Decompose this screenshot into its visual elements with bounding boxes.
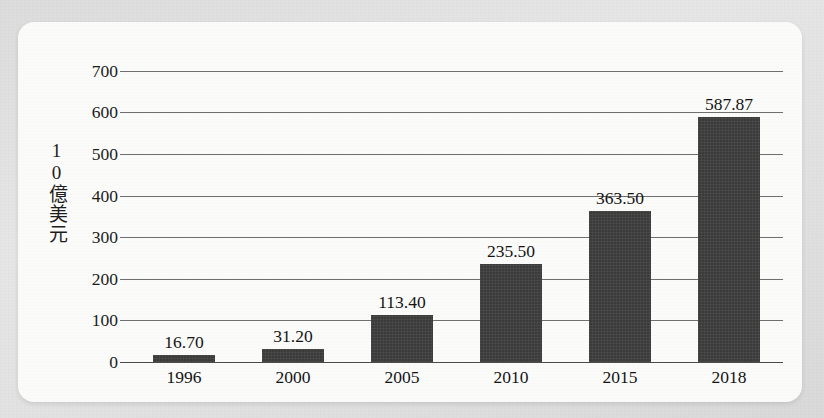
bar-value-2010: 235.50: [470, 241, 552, 262]
y-axis-title: 10億美元: [40, 140, 66, 244]
bar-2010[interactable]: [480, 264, 542, 362]
y-tick-label: 300: [72, 227, 118, 248]
bar-value-2000: 31.20: [252, 326, 334, 347]
bar-2018[interactable]: [698, 117, 760, 362]
y-tick-label: 100: [72, 310, 118, 331]
y-tick-label: 400: [72, 185, 118, 206]
bar-2000[interactable]: [262, 349, 324, 362]
bar-chart-plot: 10億美元 0 100 200 300 400 500 600 700: [18, 22, 802, 402]
x-tick-label-2015: 2015: [580, 367, 660, 388]
x-tick-label-1996: 1996: [144, 367, 224, 388]
y-tick-label: 700: [72, 60, 118, 81]
y-tick-label: 500: [72, 144, 118, 165]
gridline-600: [120, 112, 783, 113]
bar-value-2005: 113.40: [361, 292, 443, 313]
x-tick-label-2010: 2010: [471, 367, 551, 388]
x-tick-label-2000: 2000: [253, 367, 333, 388]
gridline-100: [120, 320, 783, 321]
x-axis-baseline: [120, 362, 783, 363]
y-axis-tick-labels: 0 100 200 300 400 500 600 700: [66, 22, 118, 402]
gridline-300: [120, 237, 783, 238]
bar-value-1996: 16.70: [143, 332, 225, 353]
y-tick-label: 0: [72, 352, 118, 373]
bar-value-2015: 363.50: [579, 188, 661, 209]
bar-2015[interactable]: [589, 211, 651, 362]
bar-1996[interactable]: [153, 355, 215, 362]
bar-2005[interactable]: [371, 315, 433, 362]
gridline-400: [120, 196, 783, 197]
x-tick-label-2018: 2018: [689, 367, 769, 388]
chart-screenshot: 10億美元 0 100 200 300 400 500 600 700: [0, 0, 824, 418]
x-tick-label-2005: 2005: [362, 367, 442, 388]
gridline-500: [120, 154, 783, 155]
chart-card: 10億美元 0 100 200 300 400 500 600 700: [18, 22, 802, 402]
y-tick-label: 600: [72, 102, 118, 123]
bar-value-2018: 587.87: [688, 94, 770, 115]
gridline-700: [120, 71, 783, 72]
gridline-200: [120, 279, 783, 280]
y-tick-label: 200: [72, 268, 118, 289]
